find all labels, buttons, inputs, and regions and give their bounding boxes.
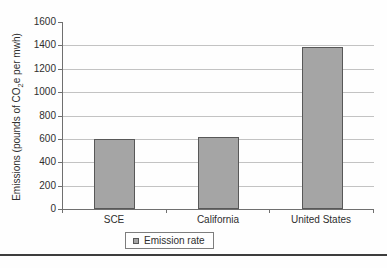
- page-divider: [0, 254, 387, 256]
- x-category-label: United States: [266, 214, 376, 226]
- y-tick-label: 200: [0, 180, 56, 192]
- scanned-figure: Emissions (pounds of CO2e per mwh) 02004…: [0, 0, 387, 268]
- y-tick-label: 1400: [0, 39, 56, 51]
- x-tick-mark: [373, 210, 374, 213]
- x-category-label: SCE: [59, 214, 169, 226]
- y-tick-label: 400: [0, 156, 56, 168]
- y-tick-label: 1600: [0, 16, 56, 28]
- x-category-label: California: [163, 214, 273, 226]
- y-tick-label: 800: [0, 110, 56, 122]
- legend-label: Emission rate: [144, 235, 205, 246]
- x-tick-mark: [62, 210, 63, 213]
- plot-area: [62, 22, 374, 210]
- y-tick-label: 1000: [0, 86, 56, 98]
- y-tick-label: 1200: [0, 63, 56, 75]
- legend-marker-icon: [133, 238, 139, 244]
- x-tick-mark: [166, 210, 167, 213]
- bar-united-states: [302, 47, 343, 209]
- legend: Emission rate: [125, 232, 214, 249]
- gridline: [63, 45, 374, 46]
- y-tick-label: 600: [0, 133, 56, 145]
- bar-california: [198, 137, 239, 209]
- y-tick-label: 0: [0, 203, 56, 215]
- x-tick-mark: [269, 210, 270, 213]
- bar-sce: [94, 139, 135, 209]
